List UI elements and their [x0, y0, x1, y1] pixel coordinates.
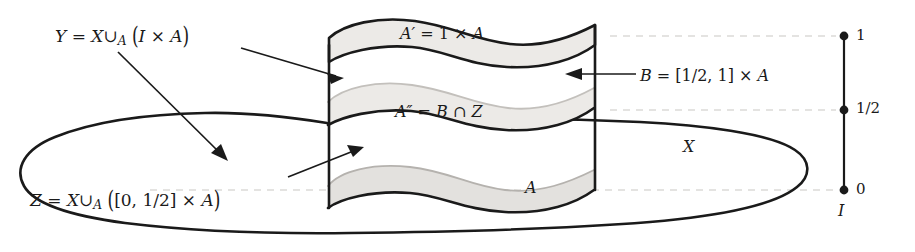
arrow-Y-to-blob	[118, 52, 228, 161]
label-Z: Z = X∪A ([0, 1/2] × A)	[30, 192, 220, 212]
arrowhead-B-to-cylinder	[565, 68, 582, 80]
interval-tick-dot-1	[840, 32, 849, 41]
label-X-region: X	[683, 139, 694, 155]
label-B: B = [1/2, 1] × A	[640, 68, 769, 84]
label-I-axis: I	[838, 203, 844, 219]
mapping-cylinder-figure: Y = X∪A (I × A) Z = X∪A ([0, 1/2] × A) B…	[0, 0, 915, 252]
interval-tick-label-1: 1	[856, 26, 866, 44]
label-A-bottom: A	[525, 180, 537, 196]
label-Y: Y = X∪A (I × A)	[55, 28, 189, 48]
interval-tick-dot-0	[840, 186, 849, 195]
label-A-double-prime: A″ = B ∩ Z	[395, 104, 483, 120]
label-A-prime: A′ = 1 × A	[400, 26, 484, 42]
interval-tick-label-0: 0	[856, 180, 866, 198]
interval-tick-label-half: 1/2	[856, 99, 880, 117]
interval-axis	[840, 32, 849, 195]
arrowhead-Z-to-cylinder	[347, 145, 364, 157]
interval-tick-dot-half	[840, 106, 849, 115]
arrow-B-to-cylinder	[565, 68, 636, 80]
